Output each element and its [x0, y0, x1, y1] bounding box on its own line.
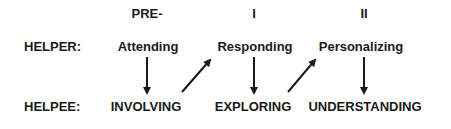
flow-arrows [0, 0, 451, 129]
arrow-exploring-to-personalizing [288, 60, 315, 92]
arrow-involving-to-responding [182, 60, 210, 92]
